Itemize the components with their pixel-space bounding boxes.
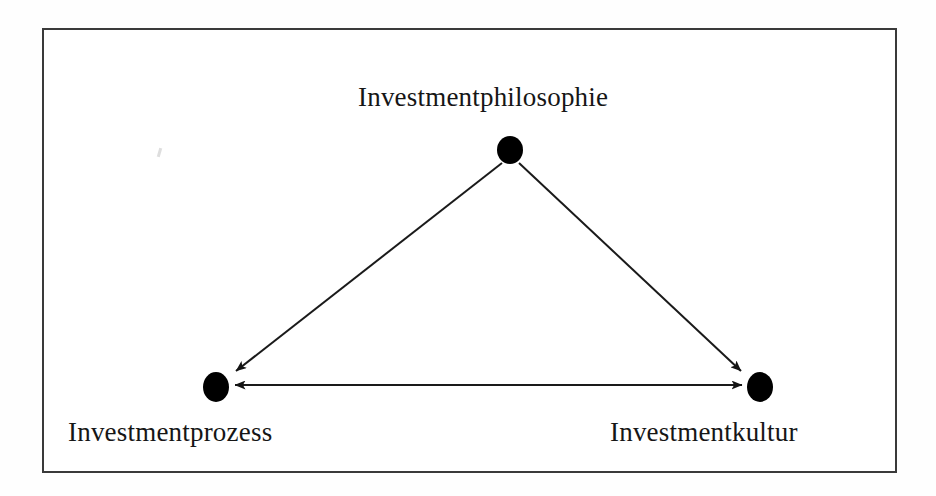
diagram-canvas: Investmentphilosophie Investmentprozess … [0,0,936,496]
node-group [203,136,773,402]
node-label-investmentphilosophie: Investmentphilosophie [0,82,936,112]
edge-group [235,163,742,385]
edge-philosophie-to-kultur [519,163,741,371]
node-label-investmentkultur: Investmentkultur [610,417,798,447]
node-label-investmentprozess: Investmentprozess [68,417,272,447]
node-investmentprozess [203,372,229,402]
edge-philosophie-to-prozess [236,163,502,371]
node-investmentkultur [747,372,773,402]
node-investmentphilosophie [497,136,523,164]
